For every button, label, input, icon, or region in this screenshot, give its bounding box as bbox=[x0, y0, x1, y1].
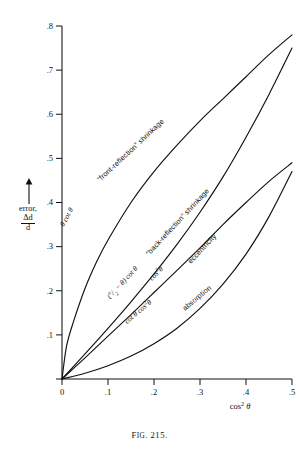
x-tick-label-0: 0 bbox=[60, 387, 64, 397]
y-axis-ticks bbox=[56, 26, 62, 379]
x-tick-label-5: .5 bbox=[289, 387, 295, 397]
figure-caption-number: . 215. bbox=[145, 430, 167, 440]
curve-front-reflection-shrinkage-main bbox=[62, 35, 292, 379]
y-tick-label-2: .3 bbox=[47, 241, 53, 251]
curve-eccentricity bbox=[62, 163, 292, 379]
label-absorption-formula: cot θ cos2θ bbox=[122, 297, 154, 326]
figure-container: .1 .2 .3 .4 .5 .6 .7 .8 0 .1 .2 .3 .4 .5… bbox=[0, 0, 299, 452]
x-tick-label-2: .2 bbox=[151, 387, 157, 397]
y-tick-label-1: .2 bbox=[47, 286, 53, 296]
curve-absorption-main bbox=[62, 172, 292, 379]
label-front-reflection-formula: θ cot θ bbox=[58, 206, 76, 228]
label-eccentricity: eccentricity bbox=[186, 231, 219, 265]
y-axis-fraction-denominator: d bbox=[21, 224, 34, 233]
x-tick-label-1: .1 bbox=[105, 387, 111, 397]
y-tick-label-0: .1 bbox=[47, 330, 53, 340]
curve-back-reflection-shrinkage-main bbox=[62, 48, 292, 379]
y-axis-title-fraction: Δd d bbox=[21, 214, 34, 232]
figure-caption: FIG. 215. bbox=[0, 430, 299, 440]
figure-caption-ig: IG bbox=[137, 432, 146, 440]
x-tick-label-4: .4 bbox=[243, 387, 250, 397]
y-tick-label-5: .6 bbox=[47, 109, 53, 119]
label-absorption: absorption bbox=[181, 283, 214, 312]
label-front-reflection-shrinkage: “front-reflection” shrinkage bbox=[95, 117, 166, 184]
y-tick-label-7: .8 bbox=[47, 21, 53, 31]
x-axis-title: cos2 θ bbox=[230, 401, 251, 411]
y-axis-title-word: error, bbox=[4, 205, 52, 213]
y-axis-arrow-icon bbox=[23, 178, 35, 204]
y-tick-label-4: .5 bbox=[47, 153, 53, 163]
x-tick-label-3: .3 bbox=[197, 387, 203, 397]
y-tick-label-6: .7 bbox=[47, 65, 53, 75]
x-axis-ticks bbox=[62, 379, 292, 385]
y-axis-title: error, Δd d bbox=[4, 205, 52, 233]
